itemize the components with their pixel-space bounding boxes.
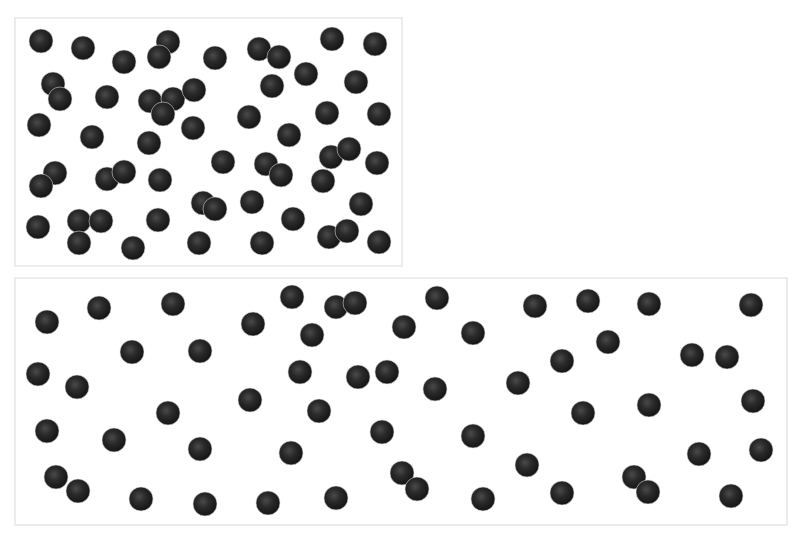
ball-dot [161, 292, 185, 316]
ball-dot [267, 45, 291, 69]
top-panel [15, 18, 402, 266]
bottom-panel [15, 278, 787, 525]
ball-dot [181, 116, 205, 140]
ball-dot [370, 420, 394, 444]
ball-dot [260, 74, 284, 98]
ball-dot [596, 330, 620, 354]
ball-dot [375, 360, 399, 384]
ball-dot [461, 424, 485, 448]
ball-dot [749, 438, 773, 462]
ball-dot [238, 388, 262, 412]
ball-dot [320, 27, 344, 51]
ball-dot [67, 209, 91, 233]
ball-dot [405, 477, 429, 501]
ball-dot [188, 339, 212, 363]
ball-dot [392, 315, 416, 339]
ball-dot [35, 310, 59, 334]
ball-dot [240, 190, 264, 214]
ball-dot [337, 137, 361, 161]
ball-dot [156, 401, 180, 425]
ball-dot [241, 312, 265, 336]
ball-dot [193, 492, 217, 516]
ball-dot [102, 428, 126, 452]
ball-dot [571, 401, 595, 425]
ball-dot [26, 215, 50, 239]
ball-dot [211, 150, 235, 174]
ball-dot [367, 230, 391, 254]
ball-dot [719, 484, 743, 508]
ball-dot [35, 419, 59, 443]
ball-dot [112, 50, 136, 74]
ball-dot [739, 293, 763, 317]
ball-dot [687, 442, 711, 466]
ball-dot [71, 36, 95, 60]
ball-dot [288, 360, 312, 384]
bottom-panel-frame [15, 278, 787, 525]
ball-dot [365, 151, 389, 175]
ball-dot [147, 45, 171, 69]
ball-dot [300, 323, 324, 347]
ball-dot [280, 285, 304, 309]
ball-dot [506, 371, 530, 395]
ball-dot [203, 197, 227, 221]
ball-dot [89, 209, 113, 233]
ball-dot [269, 163, 293, 187]
ball-dot [65, 375, 89, 399]
ball-dot [29, 29, 53, 53]
ball-dot [346, 365, 370, 389]
ball-dot [344, 70, 368, 94]
ball-dot [637, 292, 661, 316]
ball-dot [363, 32, 387, 56]
ball-dot [523, 294, 547, 318]
ball-dot [87, 296, 111, 320]
ball-dot [67, 231, 91, 255]
ball-dot [26, 362, 50, 386]
ball-dot [294, 62, 318, 86]
ball-dot [311, 169, 335, 193]
ball-dot [48, 87, 72, 111]
ball-dot [637, 393, 661, 417]
ball-dot [636, 480, 660, 504]
ball-dot [279, 441, 303, 465]
ball-dot [182, 78, 206, 102]
ball-dot [95, 85, 119, 109]
ball-dot [367, 102, 391, 126]
ball-dot [423, 377, 447, 401]
ball-dot [471, 487, 495, 511]
dot-comparison-figure [0, 0, 804, 535]
ball-dot [335, 219, 359, 243]
ball-dot [256, 491, 280, 515]
ball-dot [188, 437, 212, 461]
ball-dot [121, 236, 145, 260]
ball-dot [680, 343, 704, 367]
ball-dot [307, 399, 331, 423]
ball-dot [425, 286, 449, 310]
ball-dot [203, 46, 227, 70]
ball-dot [80, 125, 104, 149]
ball-dot [66, 479, 90, 503]
ball-dot [343, 291, 367, 315]
ball-dot [281, 207, 305, 231]
ball-dot [324, 486, 348, 510]
ball-dot [550, 481, 574, 505]
ball-dot [137, 131, 161, 155]
ball-dot [461, 321, 485, 345]
ball-dot [277, 123, 301, 147]
ball-dot [515, 453, 539, 477]
ball-dot [315, 101, 339, 125]
ball-dot [715, 345, 739, 369]
ball-dot [349, 192, 373, 216]
ball-dot [120, 340, 144, 364]
ball-dot [187, 231, 211, 255]
ball-dot [250, 231, 274, 255]
ball-dot [44, 465, 68, 489]
ball-dot [237, 105, 261, 129]
ball-dot [151, 102, 175, 126]
ball-dot [741, 389, 765, 413]
ball-dot [550, 349, 574, 373]
ball-dot [146, 208, 170, 232]
ball-dot [112, 160, 136, 184]
ball-dot [27, 113, 51, 137]
ball-dot [129, 487, 153, 511]
ball-dot [148, 168, 172, 192]
